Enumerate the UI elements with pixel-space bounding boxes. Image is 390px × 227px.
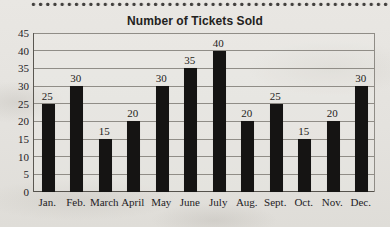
gridline (34, 33, 374, 34)
scanned-page: Number of Tickets Sold 05101520253035404… (0, 0, 390, 227)
bar-value-label: 25 (261, 90, 289, 102)
bar-value-label: 40 (204, 37, 232, 49)
bar-june (184, 68, 197, 192)
bar-value-label: 35 (176, 54, 204, 66)
gridline (34, 191, 374, 192)
y-tick-label: 40 (3, 45, 29, 57)
y-tick-label: 0 (3, 186, 29, 198)
bar-march (99, 139, 112, 192)
bar-value-label: 15 (290, 125, 318, 137)
dotted-divider (31, 2, 390, 7)
bar-sept (270, 104, 283, 192)
bar-nov (327, 121, 340, 192)
bar-value-label: 20 (318, 107, 346, 119)
gridline (34, 156, 374, 157)
y-tick-label: 45 (3, 27, 29, 39)
bar-value-label: 30 (147, 72, 175, 84)
y-tick-label: 20 (3, 115, 29, 127)
bar-value-label: 15 (90, 125, 118, 137)
bar-april (127, 121, 140, 192)
gridline (34, 103, 374, 104)
bar-value-label: 25 (33, 90, 61, 102)
gridline (34, 139, 374, 140)
bar-aug (241, 121, 254, 192)
bar-oct (298, 139, 311, 192)
bar-july (213, 51, 226, 192)
gridline (34, 86, 374, 87)
bar-jan (42, 104, 55, 192)
y-tick-label: 35 (3, 62, 29, 74)
bar-feb (70, 86, 83, 192)
bar-value-label: 20 (119, 107, 147, 119)
bar-value-label: 30 (347, 72, 375, 84)
bar-dec (355, 86, 368, 192)
y-tick-label: 15 (3, 133, 29, 145)
bar-may (156, 86, 169, 192)
gridline (34, 68, 374, 69)
gridline (34, 174, 374, 175)
y-tick-label: 10 (3, 151, 29, 163)
bar-value-label: 30 (62, 72, 90, 84)
y-tick-label: 25 (3, 98, 29, 110)
y-tick-label: 30 (3, 80, 29, 92)
chart-title: Number of Tickets Sold (0, 14, 390, 28)
y-tick-label: 5 (3, 168, 29, 180)
gridline (34, 121, 374, 122)
bar-value-label: 20 (233, 107, 261, 119)
x-tick-label: Dec. (344, 196, 378, 209)
gridline (34, 50, 374, 51)
